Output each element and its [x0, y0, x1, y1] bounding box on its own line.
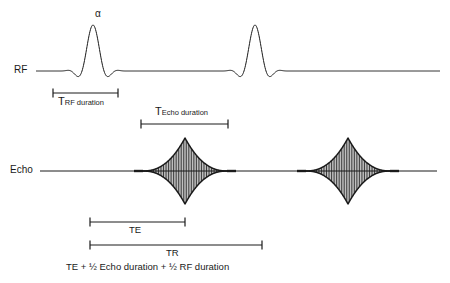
rf-duration-subscript: RF duration [65, 98, 104, 107]
tr-formula-label: TE + ½ Echo duration + ½ RF duration [66, 262, 229, 272]
te-label: TE [129, 225, 141, 235]
flip-angle-alpha-label: α [95, 9, 101, 19]
echo-axis-label: Echo [10, 165, 33, 175]
rf-duration-prefix: T [58, 95, 65, 107]
rf-duration-label: TRF duration [58, 96, 104, 107]
rf-axis-label: RF [14, 65, 27, 75]
echo-duration-subscript: Echo duration [162, 108, 208, 117]
rf-waveform [36, 25, 440, 77]
echo-duration-prefix: T [155, 105, 162, 117]
tr-label: TR [166, 248, 179, 258]
echo-duration-label: TEcho duration [155, 106, 208, 117]
pulse-sequence-figure: RF Echo α TRF duration TEcho duration TE… [0, 0, 450, 283]
diagram-canvas [0, 0, 450, 283]
echo-waveform [40, 138, 437, 204]
